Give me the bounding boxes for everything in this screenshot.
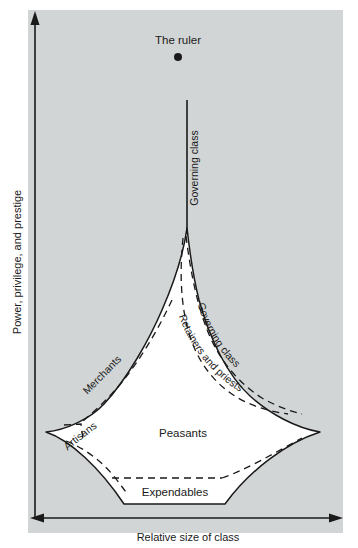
dot-marker-icon: [174, 53, 182, 61]
lenski-stratification-figure: The ruler Governing class Power, privile…: [0, 0, 358, 548]
class-label-peasants: Peasants: [159, 427, 207, 439]
class-label-expendables: Expendables: [142, 486, 209, 498]
y-axis-label: Power, privilege, and prestige: [11, 190, 23, 334]
spire-governing-class-label: Governing class: [188, 130, 200, 205]
x-axis-label: Relative size of class: [137, 531, 240, 543]
ruler-label: The ruler: [155, 34, 201, 46]
